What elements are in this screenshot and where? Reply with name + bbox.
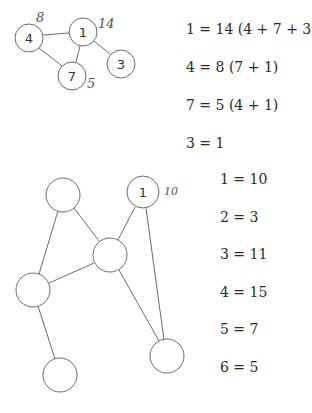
edge-b-f (146, 208, 164, 340)
top-equation-1: 1 = 14 (4 + 7 + 3) (186, 21, 312, 37)
top-equation-4: 3 = 1 (186, 135, 224, 151)
node-a (46, 178, 80, 212)
node-1-annotation: 14 (98, 16, 115, 31)
node-e (43, 358, 77, 392)
node-b-annotation: 10 (164, 185, 178, 198)
node-4-annotation: 8 (36, 10, 44, 25)
svg-text:4: 4 (25, 31, 33, 46)
node-d (16, 273, 50, 307)
node-7-annotation: 5 (87, 76, 95, 91)
bottom-equation-5: 5 = 7 (220, 321, 258, 337)
bottom-equation-4: 4 = 15 (220, 284, 267, 300)
node-b: 1 10 (127, 176, 178, 208)
top-equation-2: 4 = 8 (7 + 1) (186, 59, 278, 75)
edge-a-d (39, 211, 58, 274)
node-7: 7 5 (58, 62, 95, 91)
edge-4-7 (39, 48, 62, 66)
edge-c-d (49, 263, 94, 283)
edge-d-e (38, 306, 55, 359)
bottom-equation-1: 1 = 10 (220, 171, 267, 187)
bottom-equation-6: 6 = 5 (220, 359, 258, 375)
edge-4-1 (43, 33, 69, 35)
svg-text:7: 7 (68, 69, 76, 84)
svg-text:1: 1 (139, 185, 147, 200)
node-c (93, 238, 127, 272)
edge-c-f (119, 270, 159, 341)
node-1: 1 14 (69, 16, 115, 46)
bottom-equation-3: 3 = 11 (220, 246, 267, 262)
node-4: 4 8 (15, 10, 44, 52)
edge-a-c (74, 208, 99, 241)
edge-1-3 (94, 41, 110, 54)
node-f (150, 339, 184, 373)
svg-text:3: 3 (117, 57, 125, 72)
top-equation-3: 7 = 5 (4 + 1) (186, 97, 278, 113)
node-3: 3 (107, 50, 135, 78)
svg-text:1: 1 (79, 25, 87, 40)
bottom-equation-2: 2 = 3 (220, 209, 258, 225)
edge-b-c (118, 207, 135, 240)
edge-1-7 (76, 46, 80, 62)
